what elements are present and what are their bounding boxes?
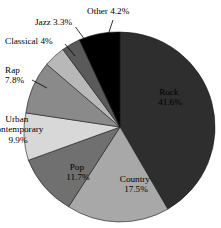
callout-label-rap: Rap 7.8% [5, 65, 24, 85]
callout-label-jazz-line1: Jazz 3.3% [35, 17, 73, 27]
callout-label-other: Other 4.2% [87, 6, 130, 16]
callout-label-classical-line1: Classical 4% [5, 36, 53, 46]
slice-label-country-line2: 17.5% [124, 184, 148, 194]
slice-label-rock: Rock 41.6% [158, 87, 182, 107]
callout-label-rap-line1: Rap [5, 65, 20, 75]
slice-label-country-line1: Country [120, 174, 151, 184]
slice-label-urban-line2: Contemporary [0, 124, 44, 134]
callout-label-other-line1: Other 4.2% [87, 6, 130, 16]
callout-label-classical: Classical 4% [5, 36, 53, 46]
slice-label-pop-line2: 11.7% [66, 172, 90, 182]
slice-label-rock-line1: Rock [159, 87, 179, 97]
slice-label-country: Country 17.5% [120, 174, 152, 194]
callout-label-rap-line2: 7.8% [5, 75, 24, 85]
callout-label-jazz: Jazz 3.3% [35, 17, 73, 27]
slice-label-urban-line3: 9.9% [8, 135, 27, 145]
slice-label-rock-line2: 41.6% [158, 97, 182, 107]
pie-chart-figure: Rock 41.6% Country 17.5% Pop 11.7% Urban… [0, 0, 221, 228]
slice-label-pop-line1: Pop [70, 162, 85, 172]
pie-chart-canvas: Rock 41.6% Country 17.5% Pop 11.7% Urban… [0, 0, 221, 228]
pie-slices-group [24, 32, 215, 222]
slice-label-urban-line1: Urban [5, 114, 28, 124]
